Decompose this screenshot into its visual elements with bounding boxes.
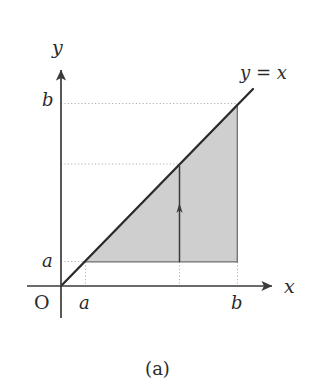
x-axis-label: x [284,275,295,297]
x-tick-label-b: b [231,292,243,313]
figure-container: y x b a a b O y = x (a) [0,0,315,388]
y-tick-label-b: b [42,89,54,110]
y-tick-label-a: a [42,250,53,271]
origin-label: O [34,291,50,313]
plot-canvas [0,0,315,388]
figure-caption: (a) [0,358,315,379]
x-tick-label-a: a [79,292,90,313]
y-axis-label: y [52,36,63,58]
line-equation-label: y = x [240,62,287,83]
